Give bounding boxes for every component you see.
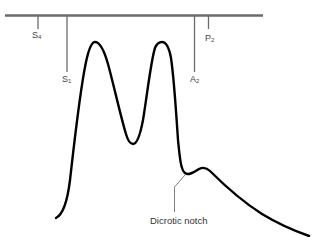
- marker-label-s1: S1: [62, 75, 71, 84]
- notch-leader-line: [175, 175, 186, 212]
- dicrotic-notch-label: Dicrotic notch: [150, 216, 208, 226]
- marker-label-p2: P2: [205, 34, 214, 43]
- marker-label-a2: A2: [190, 75, 199, 84]
- marker-label-s4: S4: [32, 31, 41, 40]
- waveform-diagram: [0, 0, 315, 237]
- pressure-curve: [56, 42, 309, 236]
